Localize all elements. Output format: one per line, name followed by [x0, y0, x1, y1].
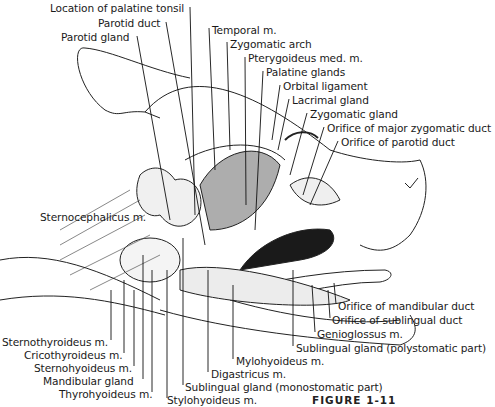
- label-sublingual-monostomatic: Sublingual gland (monostomatic part): [185, 381, 383, 393]
- label-orbital-ligament: Orbital ligament: [283, 80, 368, 92]
- label-orifice-mandibular-duct: Orifice of mandibular duct: [338, 300, 474, 312]
- label-lacrimal-gland: Lacrimal gland: [292, 94, 369, 106]
- label-pterygoideus: Pterygoideus med. m.: [248, 52, 363, 64]
- label-palatine-tonsil: Location of palatine tonsil: [50, 2, 184, 14]
- label-zygomatic-gland: Zygomatic gland: [310, 108, 398, 120]
- label-cricothyroideus: Cricothyroideus m.: [24, 349, 122, 361]
- label-sternothyroideus: Sternothyroideus m.: [2, 336, 108, 348]
- label-zygomatic-arch: Zygomatic arch: [230, 38, 312, 50]
- label-genioglossus: Genioglossus m.: [317, 328, 403, 340]
- label-orifice-sublingual-duct: Orifice of sublingual duct: [332, 314, 462, 326]
- label-sublingual-polystomatic: Sublingual gland (polystomatic part): [296, 342, 486, 354]
- label-parotid-gland: Parotid gland: [61, 31, 130, 43]
- label-orifice-parotid-duct: Orifice of parotid duct: [341, 136, 455, 148]
- anatomy-figure: Location of palatine tonsil Parotid duct…: [0, 0, 495, 407]
- label-thyrohyoideus: Thyrohyoideus m.: [59, 388, 152, 400]
- label-digastricus: Digastricus m.: [211, 368, 286, 380]
- figure-caption: FIGURE 1-11: [312, 394, 396, 406]
- label-temporal: Temporal m.: [212, 24, 276, 36]
- label-palatine-glands: Palatine glands: [266, 66, 345, 78]
- label-stylohyoideus: Stylohyoideus m.: [167, 394, 257, 406]
- label-sternocephalicus: Sternocephalicus m.: [40, 211, 146, 223]
- label-orifice-major-zygomatic-duct: Orifice of major zygomatic duct: [327, 122, 491, 134]
- label-sternohyoideus: Sternohyoideus m.: [34, 362, 132, 374]
- label-parotid-duct: Parotid duct: [98, 17, 160, 29]
- label-mandibular-gland: Mandibular gland: [43, 375, 134, 387]
- label-mylohyoideus: Mylohyoideus m.: [236, 355, 324, 367]
